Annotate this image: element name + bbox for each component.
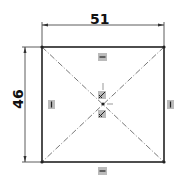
horizontal-relation-icon [98, 167, 107, 175]
horizontal-relation-icon [98, 53, 107, 61]
vertical-relation-icon [48, 100, 55, 109]
vertical-relation-icon [167, 100, 174, 109]
height-dimension-value[interactable]: 46 [11, 89, 25, 108]
midpoint-relation-icon [98, 83, 113, 118]
width-dimension-value[interactable]: 51 [90, 12, 109, 26]
